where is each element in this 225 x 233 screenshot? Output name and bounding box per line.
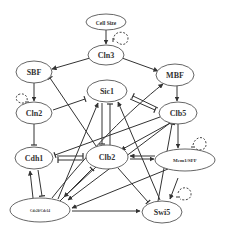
node-cln3[interactable]: Cln3 (88, 45, 124, 65)
self-loop-cln3 (114, 32, 128, 44)
cell-cycle-network-diagram: Cell Size Cln3 SBF MBF Sic1 Cln2 Clb5 C (0, 0, 225, 233)
node-sbf[interactable]: SBF (16, 61, 52, 83)
node-label: Clb2 (99, 153, 115, 162)
edge-cdh1-cdc20 (38, 170, 42, 196)
node-clb2[interactable]: Clb2 (86, 145, 128, 169)
node-sic1[interactable]: Sic1 (87, 80, 127, 102)
node-mbf[interactable]: MBF (156, 64, 194, 86)
node-label: SBF (27, 68, 42, 77)
node-label: Cln3 (98, 51, 114, 60)
node-cdc20-cdc14[interactable]: Cdc20/Cdc14 (10, 198, 70, 222)
node-swi5[interactable]: Swi5 (142, 201, 182, 223)
node-label: Cell Size (96, 20, 117, 26)
node-label: Mcm1/SFF (173, 158, 197, 163)
self-loop-mcm1 (193, 138, 206, 150)
node-label: MBF (166, 71, 184, 80)
edge-cln3-sbf (52, 58, 90, 69)
node-mcm1-sff[interactable]: Mcm1/SFF (155, 149, 215, 171)
edge-cln3-mbf (122, 58, 158, 71)
edge-cln2-sic1 (53, 99, 85, 110)
node-label: Sic1 (100, 87, 114, 96)
edge-cdc20-cdh1 (30, 171, 33, 198)
node-label: Clb5 (170, 109, 186, 118)
edge-mcm1-swi5 (170, 178, 178, 199)
node-cln2[interactable]: Cln2 (16, 102, 52, 124)
self-loop-swi5 (178, 188, 191, 200)
node-label: Cln2 (26, 109, 42, 118)
node-label: Cdh1 (25, 154, 44, 163)
node-label: Cdc20/Cdc14 (30, 209, 50, 213)
node-label: Swi5 (154, 208, 170, 217)
node-cdh1[interactable]: Cdh1 (15, 147, 53, 169)
node-cell-size[interactable]: Cell Size (86, 14, 126, 30)
node-clb5[interactable]: Clb5 (159, 102, 197, 124)
edge-clb2-swi5 (118, 168, 148, 202)
